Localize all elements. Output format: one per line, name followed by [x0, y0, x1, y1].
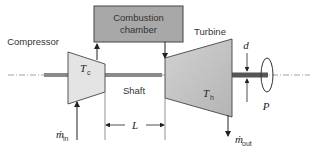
shaft-right — [232, 73, 268, 78]
gas-turbine-diagram: Combustion chamber Compressor T c Turbin… — [0, 0, 316, 150]
mass-in-sub: in — [63, 135, 69, 142]
turbine — [165, 39, 232, 117]
compressor — [68, 52, 105, 104]
compressor-temp-label: T — [80, 62, 87, 74]
turbine-temp-label: T — [203, 87, 210, 99]
length-label: L — [131, 119, 138, 131]
turbine-temp-sub: h — [210, 94, 214, 101]
power-label: P — [262, 100, 270, 112]
turbine-label: Turbine — [194, 26, 226, 37]
shaft-label: Shaft — [123, 85, 146, 96]
mass-out-sub: out — [242, 140, 252, 147]
shaft — [105, 73, 162, 77]
compressor-temp-sub: c — [87, 69, 91, 76]
shaft-left — [44, 73, 68, 77]
combustion-label-2: chamber — [120, 24, 157, 35]
compressor-label: Compressor — [7, 36, 59, 47]
diameter-label: d — [243, 39, 249, 51]
combustion-label-1: Combustion — [113, 12, 164, 23]
